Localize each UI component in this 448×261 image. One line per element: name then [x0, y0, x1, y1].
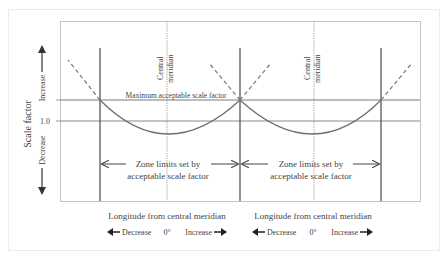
y-decrease-label: Decrease [38, 135, 47, 165]
curve-extension-right [381, 63, 412, 100]
y-axis-label: Scale factor [22, 100, 33, 148]
lon-increase-arrow-icon-2 [367, 228, 373, 236]
lon-zero-label-2: 0° [309, 228, 316, 237]
lon-decrease-arrow-icon-1 [107, 228, 113, 236]
central-meridian-label-2b: meridian [313, 55, 322, 83]
curve-extension-2b [240, 63, 271, 100]
curve-extension-left [68, 60, 100, 100]
zone-limits-label-2a: Zone limits set by [279, 159, 344, 169]
lon-increase-label-1: Increase [185, 228, 212, 237]
lon-decrease-label-1: Decrease [122, 228, 152, 237]
central-meridian-label-2a: Central [303, 56, 312, 80]
zone-limits-label-1b: acceptable scale factor [127, 171, 208, 181]
increase-arrow-icon [38, 45, 46, 53]
x-axis-title-2: Longitude from central meridian [254, 211, 372, 221]
lon-zero-label-1: 0° [163, 228, 170, 237]
x-axis-title-1: Longitude from central meridian [108, 211, 226, 221]
lon-increase-arrow-icon-1 [221, 228, 227, 236]
central-meridian-label-1a: Central [156, 56, 165, 80]
scale-curve-zone-2 [240, 100, 381, 134]
lon-decrease-arrow-icon-2 [252, 228, 258, 236]
lon-decrease-label-2: Decrease [267, 228, 297, 237]
scale-factor-diagram: Scale factor Increase Decrease 1.0 Maxim… [0, 0, 448, 261]
decrease-arrow-icon [38, 187, 46, 195]
max-scale-factor-label: Maximum acceptable scale factor [126, 91, 227, 100]
central-meridian-label-1b: meridian [166, 55, 175, 83]
y-increase-label: Increase [38, 74, 47, 101]
zone-limits-label-2b: acceptable scale factor [270, 171, 351, 181]
unity-label: 1.0 [40, 117, 50, 126]
scale-curve-zone-1 [100, 100, 240, 134]
lon-increase-label-2: Increase [331, 228, 358, 237]
zone-limits-label-1a: Zone limits set by [136, 159, 201, 169]
